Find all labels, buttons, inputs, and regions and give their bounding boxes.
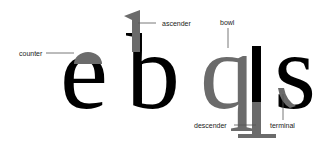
label-ascender: ascender bbox=[162, 20, 191, 27]
glyph-e: e bbox=[60, 12, 108, 131]
label-terminal: terminal bbox=[270, 122, 295, 129]
label-bowl: bowl bbox=[220, 19, 235, 26]
q-stem bbox=[252, 46, 261, 102]
letter-s: s bbox=[274, 12, 316, 131]
letter-e: e bbox=[60, 12, 108, 131]
glyph-s: s bbox=[274, 12, 316, 131]
glyph-q: q bbox=[200, 12, 254, 131]
type-anatomy-diagram: e b q s counter ascender bowl bbox=[0, 0, 336, 152]
label-counter: counter bbox=[19, 50, 43, 57]
diagram-canvas: e b q s counter ascender bowl bbox=[0, 0, 336, 152]
label-descender: descender bbox=[194, 122, 227, 129]
letter-q: q bbox=[200, 12, 276, 138]
letter-b: b bbox=[124, 10, 180, 131]
